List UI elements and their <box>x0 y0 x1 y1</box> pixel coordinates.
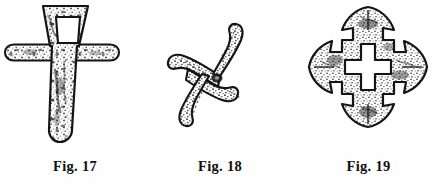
fig-17-caption: Fig. 17 <box>0 158 150 175</box>
fig-18-artwork <box>150 0 290 152</box>
fig-18-arm-upper-right <box>213 24 243 76</box>
figure-fig-18: Fig. 18 <box>150 0 290 191</box>
figure-fig-19: Fig. 19 <box>290 0 447 191</box>
fig-18-caption: Fig. 18 <box>150 158 290 175</box>
fig-19-artwork <box>290 0 447 152</box>
fig-19-caption: Fig. 19 <box>290 158 447 175</box>
illustration-plate: Fig. 17 <box>0 0 447 191</box>
figure-fig-17: Fig. 17 <box>0 0 150 191</box>
fig-17-perforation <box>56 17 80 43</box>
fig-18-center-boss <box>212 74 223 83</box>
fig-17-artwork <box>0 0 150 152</box>
